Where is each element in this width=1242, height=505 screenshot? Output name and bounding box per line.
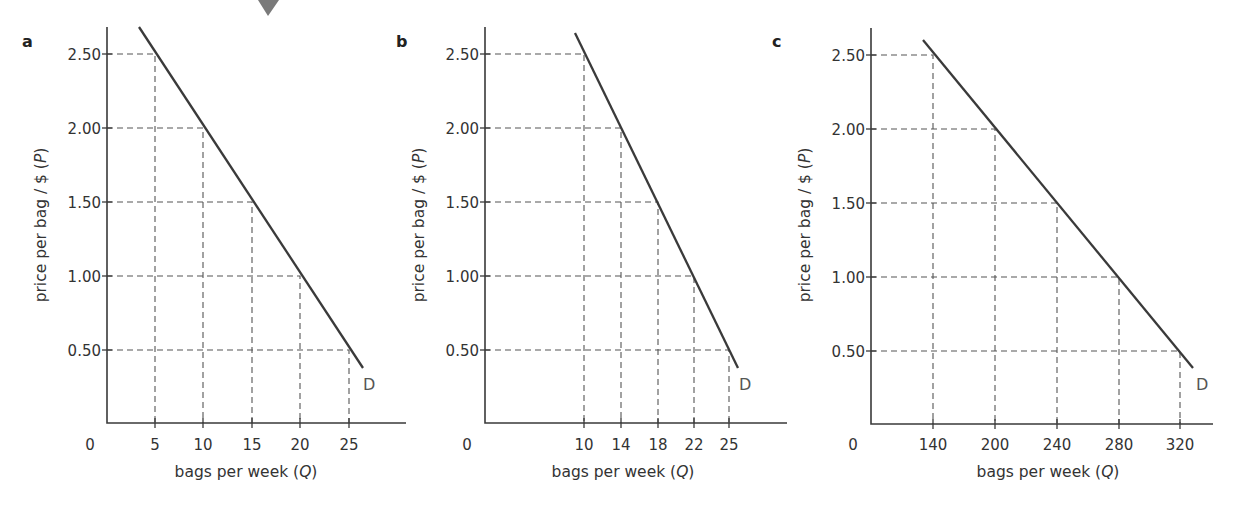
chart-panel-a: a0.501.001.502.002.505101520250Dbags per… [22, 27, 406, 481]
guide-line [485, 202, 658, 423]
axes [485, 27, 787, 423]
y-tick-label: 1.00 [68, 268, 101, 286]
demand-curve-label: D [739, 375, 751, 394]
guide-line [485, 350, 729, 423]
y-tick-label: 2.00 [446, 120, 479, 138]
y-tick-label: 0.50 [832, 343, 865, 361]
x-tick-label: 18 [648, 436, 667, 454]
y-axis-title: price per bag / $ (P) [32, 148, 50, 303]
x-tick-label: 10 [574, 436, 593, 454]
chart-panel-c: c0.501.001.502.002.501402002402803200Dba… [772, 28, 1213, 481]
y-tick-label: 1.50 [446, 194, 479, 212]
demand-curve [139, 27, 363, 368]
chart-panel-b: b0.501.001.502.002.5010141822250Dbags pe… [396, 27, 787, 481]
x-tick-label: 240 [1043, 436, 1072, 454]
guide-line [871, 351, 1180, 424]
x-tick-label: 200 [981, 436, 1010, 454]
x-tick-label: 10 [193, 436, 212, 454]
y-tick-label: 2.50 [446, 46, 479, 64]
y-tick-label: 1.50 [68, 194, 101, 212]
demand-curve-figure: a0.501.001.502.002.505101520250Dbags per… [0, 0, 1242, 505]
y-tick-label: 0.50 [68, 342, 101, 360]
y-tick-label: 1.50 [832, 195, 865, 213]
panel-letter: b [396, 32, 407, 51]
down-arrow-icon [258, 0, 279, 16]
x-tick-label: 20 [290, 436, 309, 454]
y-tick-label: 2.00 [68, 120, 101, 138]
x-tick-label: 25 [339, 436, 358, 454]
x-tick-label: 280 [1105, 436, 1134, 454]
guide-line [871, 55, 933, 424]
x-tick-label: 14 [611, 436, 630, 454]
y-tick-label: 2.50 [68, 46, 101, 64]
x-tick-label: 15 [242, 436, 261, 454]
demand-curve [575, 33, 738, 368]
x-tick-label: 22 [684, 436, 703, 454]
x-axis-title: bags per week (Q) [175, 463, 318, 481]
y-tick-label: 2.50 [832, 47, 865, 65]
y-axis-title: price per bag / $ (P) [410, 148, 428, 303]
x-axis-title: bags per week (Q) [552, 463, 695, 481]
panel-letter: a [22, 32, 33, 51]
x-tick-label: 25 [719, 436, 738, 454]
y-axis-title: price per bag / $ (P) [796, 148, 814, 303]
guide-line [107, 202, 252, 423]
demand-curve [923, 40, 1193, 368]
x-tick-label: 320 [1166, 436, 1195, 454]
axes [871, 28, 1213, 424]
y-tick-label: 1.00 [832, 269, 865, 287]
y-tick-label: 2.00 [832, 121, 865, 139]
x-axis-title: bags per week (Q) [977, 463, 1120, 481]
panel-letter: c [772, 32, 781, 51]
y-tick-label: 1.00 [446, 268, 479, 286]
y-tick-label: 0.50 [446, 342, 479, 360]
guide-line [871, 203, 1057, 424]
origin-label: 0 [848, 436, 858, 454]
origin-label: 0 [462, 436, 472, 454]
demand-curve-label: D [1196, 375, 1208, 394]
guide-line [107, 350, 349, 423]
guide-line [107, 54, 155, 423]
x-tick-label: 140 [919, 436, 948, 454]
x-tick-label: 5 [150, 436, 160, 454]
guide-line [485, 54, 584, 423]
origin-label: 0 [85, 436, 95, 454]
demand-curve-label: D [363, 375, 375, 394]
